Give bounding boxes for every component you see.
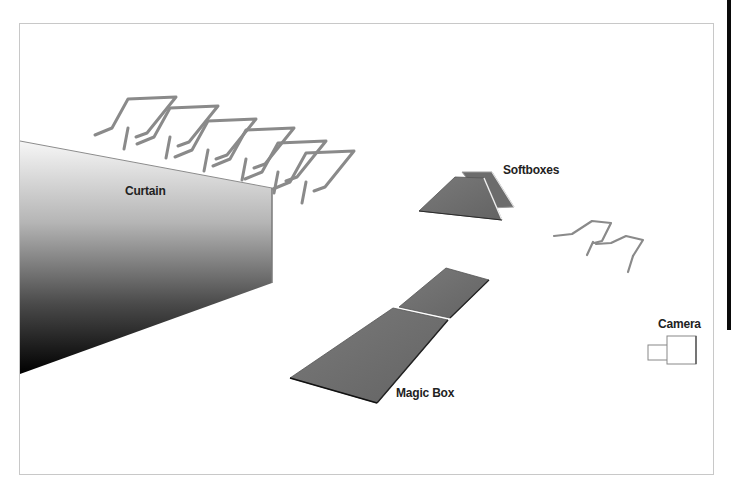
light-stand-icon <box>596 236 643 272</box>
curtain-label: Curtain <box>125 184 166 198</box>
magic-box-label: Magic Box <box>396 386 454 400</box>
front-lights <box>554 221 643 272</box>
magic-box <box>290 268 489 403</box>
camera-icon <box>648 336 696 364</box>
softboxes <box>419 172 514 220</box>
camera-label: Camera <box>658 317 701 331</box>
light-stand-icon <box>554 221 611 255</box>
light-stand-icon <box>95 97 176 149</box>
softboxes-label: Softboxes <box>503 163 559 177</box>
curtain <box>20 141 272 374</box>
light-stand-icon <box>213 128 294 180</box>
studio-scene <box>0 0 731 492</box>
